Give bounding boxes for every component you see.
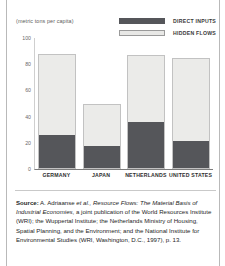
- plot-area: 100 80 60 40 20 0: [34, 38, 213, 170]
- x-label-netherlands: NETHERLANDS: [124, 172, 168, 184]
- y-tick-80: 80: [25, 61, 31, 67]
- stacked-bar: [38, 54, 76, 169]
- y-tick-60: 60: [25, 87, 31, 93]
- bar-segment-hidden-flows: [39, 55, 75, 135]
- legend-label-direct-inputs: DIRECT INPUTS: [173, 18, 216, 24]
- legend-label-hidden-flows: HIDDEN FLOWS: [173, 30, 216, 36]
- source-note: Source: A. Adriaanse et al., Resource Fl…: [16, 198, 215, 244]
- stacked-bar: [127, 55, 165, 169]
- bar-segment-direct-inputs: [128, 122, 164, 168]
- x-label-united-states: UNITED STATES: [169, 172, 213, 184]
- source-label: Source:: [16, 199, 39, 206]
- legend-swatch-direct-inputs: [119, 18, 165, 24]
- bar-segment-hidden-flows: [128, 56, 164, 122]
- x-axis-labels: GERMANY JAPAN NETHERLANDS UNITED STATES: [34, 172, 213, 184]
- right-rule: [219, 0, 220, 266]
- bar-chart: (metric tons per capita) DIRECT INPUTS H…: [7, 10, 219, 185]
- legend-item-direct-inputs: DIRECT INPUTS: [119, 16, 216, 25]
- bar-column-united-states: [172, 38, 210, 169]
- bars-container: [35, 38, 213, 169]
- legend-swatch-hidden-flows: [119, 30, 165, 36]
- y-axis-unit-label: (metric tons per capita): [16, 18, 74, 24]
- bar-segment-direct-inputs: [173, 141, 209, 168]
- stacked-bar: [172, 58, 210, 169]
- bar-column-japan: [83, 38, 121, 169]
- x-label-japan: JAPAN: [79, 172, 123, 184]
- bar-segment-direct-inputs: [39, 135, 75, 168]
- bar-column-germany: [38, 38, 76, 169]
- chart-legend: DIRECT INPUTS HIDDEN FLOWS: [119, 16, 216, 40]
- legend-item-hidden-flows: HIDDEN FLOWS: [119, 28, 216, 37]
- figure-panel: (metric tons per capita) DIRECT INPUTS H…: [7, 0, 219, 266]
- y-tick-40: 40: [25, 114, 31, 120]
- bar-column-netherlands: [127, 38, 165, 169]
- bar-segment-hidden-flows: [173, 59, 209, 141]
- source-divider: [15, 190, 216, 191]
- bar-segment-direct-inputs: [84, 146, 120, 168]
- bar-segment-hidden-flows: [84, 105, 120, 147]
- y-tick-20: 20: [25, 140, 31, 146]
- x-label-germany: GERMANY: [34, 172, 78, 184]
- source-text-lead: A. Adriaanse: [39, 199, 77, 206]
- y-tick-0: 0: [28, 166, 31, 172]
- y-tick-100: 100: [22, 35, 31, 41]
- stacked-bar: [83, 104, 121, 170]
